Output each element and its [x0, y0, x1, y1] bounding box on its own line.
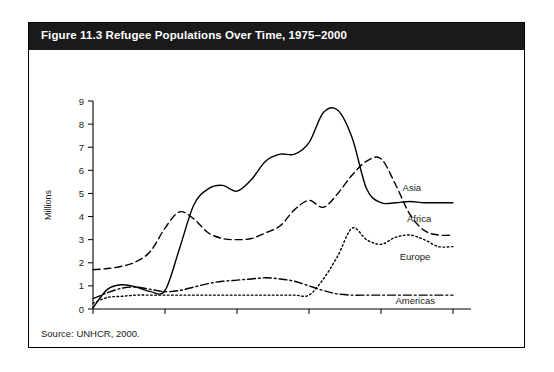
- x-tick-label: 1980: [154, 317, 175, 320]
- y-tick-label: 9: [79, 96, 84, 107]
- page-title: Figure 11.3 Refugee Populations Over Tim…: [41, 29, 347, 41]
- chart-series-group: [93, 108, 453, 308]
- source-note: Source: UNHCR, 2000.: [41, 328, 140, 339]
- x-tick-label: 1975: [82, 317, 103, 320]
- figure-container: Figure 11.3 Refugee Populations Over Tim…: [28, 22, 525, 348]
- series-label-americas: Americas: [395, 295, 435, 306]
- y-tick-label: 8: [79, 119, 84, 130]
- y-tick-label: 2: [79, 257, 84, 268]
- chart-plot-area: 0123456789 197519801985199019952000 Mill…: [29, 50, 524, 320]
- x-tick-label: 1985: [226, 317, 247, 320]
- figure-title-bar: Figure 11.3 Refugee Populations Over Tim…: [29, 23, 524, 50]
- x-tick-label: 2000: [442, 317, 463, 320]
- y-tick-label: 5: [79, 188, 84, 199]
- series-line-asia: [93, 108, 453, 308]
- y-tick-label: 3: [79, 234, 84, 245]
- y-tick-label: 4: [79, 211, 84, 222]
- series-label-asia: Asia: [403, 182, 422, 193]
- series-label-africa: Africa: [407, 213, 432, 224]
- x-tick-label: 1990: [298, 317, 319, 320]
- x-tick-label: 1995: [370, 317, 391, 320]
- series-line-europe: [93, 228, 453, 304]
- y-tick-label: 7: [79, 142, 84, 153]
- y-axis-title: Millions: [43, 190, 53, 221]
- line-chart: 0123456789 197519801985199019952000 Mill…: [29, 50, 524, 320]
- y-axis-ticks: 0123456789: [79, 96, 93, 315]
- y-tick-label: 6: [79, 165, 84, 176]
- y-tick-label: 0: [79, 304, 84, 315]
- y-tick-label: 1: [79, 280, 84, 291]
- chart-series-labels: AsiaAfricaEuropeAmericas: [395, 182, 435, 306]
- series-label-europe: Europe: [400, 251, 431, 262]
- x-axis-ticks: 197519801985199019952000: [82, 309, 463, 320]
